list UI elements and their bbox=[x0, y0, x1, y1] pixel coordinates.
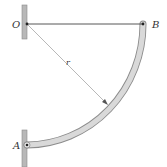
mechanics-diagram: O B A r bbox=[0, 0, 167, 167]
pin-B bbox=[142, 23, 145, 26]
pin-A bbox=[26, 144, 29, 147]
upper-wall-support bbox=[22, 5, 27, 39]
label-O: O bbox=[12, 19, 20, 30]
label-A: A bbox=[12, 140, 20, 151]
label-r: r bbox=[66, 58, 71, 67]
curved-bar bbox=[27, 24, 143, 145]
label-B: B bbox=[151, 19, 159, 30]
pin-O bbox=[26, 23, 29, 26]
lower-wall-support bbox=[22, 130, 27, 167]
